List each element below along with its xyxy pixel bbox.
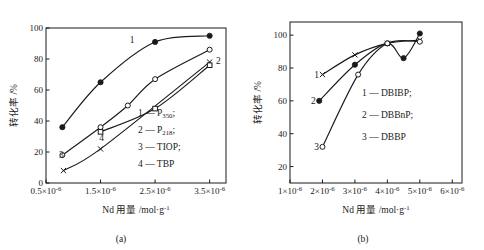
chart-legend: 1 — DBIBP;2 — DBBnP;3 — DBBP	[362, 88, 413, 142]
y-tick-label: 40	[34, 116, 44, 126]
exponent: -6	[56, 185, 62, 192]
curve-label-1: 1	[130, 35, 135, 45]
x-tick-label: 3×10-6	[343, 185, 368, 196]
legend-tail: ;	[409, 88, 412, 98]
curve-labels: 123	[311, 70, 319, 152]
y-tick-label: 100	[274, 30, 288, 40]
legend-tail: ;	[411, 110, 414, 120]
data-point-TBP	[207, 63, 212, 68]
x-tick-label: 1.5×10-6	[85, 185, 117, 196]
legend-entry-3: 3 — TIOP;	[138, 142, 181, 152]
data-point-P350	[152, 39, 157, 44]
data-point-DBIBP	[352, 52, 357, 57]
x-axis-ticks: 0.5×10-61.5×10-62.5×10-63.5×10-6	[31, 180, 226, 197]
x-axis-ticks: 1×10-62×10-63×10-64×10-65×10-66×10-6	[278, 180, 465, 197]
chart-panel-a: 0.5×10-61.5×10-62.5×10-63.5×10-6 0204060…	[0, 0, 242, 250]
legend-entry-3: 3 — DBBP	[362, 132, 406, 142]
chart-panel-b: 1×10-62×10-63×10-64×10-65×10-66×10-6 204…	[242, 0, 484, 250]
exponent: -6	[110, 185, 116, 192]
y-axis-title: 转化率 /%	[252, 81, 263, 124]
x-tick-label: 2×10-6	[310, 185, 335, 196]
legend-tail: ;	[173, 125, 176, 135]
exponent: -6	[361, 185, 367, 192]
y-axis-title: 转化率 /%	[8, 84, 19, 127]
legend-entry-2: 2 — P218;	[138, 125, 175, 136]
y-tick-label: 20	[34, 147, 44, 157]
y-tick-label: 80	[34, 54, 44, 64]
legend-tail: ;	[178, 142, 181, 152]
exponent: -6	[329, 185, 335, 192]
x-tick-label: 1×10-6	[278, 185, 303, 196]
legend-entry-4: 4 — TBP	[138, 159, 174, 169]
data-point-DBBP	[320, 144, 325, 149]
y-tick-label: 60	[278, 96, 288, 106]
data-point-DBBP	[356, 72, 361, 77]
x-tick-label: 2.5×10-6	[140, 185, 172, 196]
data-point-TIOP	[61, 168, 66, 173]
figure-root: 0.5×10-61.5×10-62.5×10-63.5×10-6 0204060…	[0, 0, 484, 250]
legend-entry-2: 2 — DBBnP;	[362, 110, 413, 120]
data-point-DBBP	[385, 41, 390, 46]
data-point-DBBP	[417, 39, 422, 44]
series-line-P350	[62, 36, 209, 127]
y-tick-label: 20	[278, 162, 288, 172]
curve-label-2: 2	[311, 96, 316, 106]
data-point-DBIBP	[320, 72, 325, 77]
data-point-TIOP	[98, 146, 103, 151]
data-point-DBBnP	[317, 98, 322, 103]
data-point-P350	[60, 125, 65, 130]
y-tick-label: 100	[30, 23, 44, 33]
x-axis-title: Nd 用量 /mol·g-1	[342, 204, 409, 215]
data-point-P218	[98, 125, 103, 130]
plot-frame	[46, 28, 226, 183]
legend-subscript: 350	[162, 112, 173, 119]
legend-entry-1: 1 — DBIBP;	[362, 88, 412, 98]
curve-label-2: 2	[216, 56, 221, 66]
data-point-P218	[207, 47, 212, 52]
series-group	[60, 33, 212, 173]
chart-b-svg: 1×10-62×10-63×10-64×10-65×10-66×10-6 204…	[242, 0, 484, 250]
data-point-DBBnP	[401, 56, 406, 61]
x-axis-title-exponent: -1	[164, 204, 170, 211]
chart-a-svg: 0.5×10-61.5×10-62.5×10-63.5×10-6 0204060…	[0, 0, 242, 250]
panel-caption-a: (a)	[116, 234, 127, 245]
series-line-TIOP	[63, 62, 209, 171]
exponent: -6	[296, 185, 302, 192]
curve-label-3: 3	[59, 150, 64, 160]
x-tick-label: 3.5×10-6	[194, 185, 226, 196]
panel-caption-b: (b)	[357, 234, 368, 245]
data-point-DBBnP	[352, 62, 357, 67]
exponent: -6	[219, 185, 225, 192]
data-point-P218	[125, 103, 130, 108]
chart-a-axes	[46, 28, 226, 183]
x-tick-label: 4×10-6	[375, 185, 400, 196]
x-tick-label: 6×10-6	[440, 185, 465, 196]
data-point-P218	[153, 77, 158, 82]
x-axis-title: Nd 用量 /mol·g-1	[102, 204, 169, 215]
exponent: -6	[165, 185, 171, 192]
data-point-P350	[207, 33, 212, 38]
legend-tail: ;	[173, 108, 176, 118]
legend-subscript: 218	[162, 129, 173, 136]
legend-entry-1: 1 — P350;	[138, 108, 175, 119]
data-point-P350	[98, 80, 103, 85]
exponent: -6	[459, 185, 465, 192]
x-tick-label: 5×10-6	[408, 185, 433, 196]
chart-legend: 1 — P350;2 — P218;3 — TIOP;4 — TBP	[138, 108, 181, 169]
data-point-DBBnP	[417, 31, 422, 36]
y-tick-label: 80	[278, 63, 288, 73]
exponent: -6	[394, 185, 400, 192]
curve-label-4: 4	[99, 133, 104, 143]
exponent: -6	[426, 185, 432, 192]
curve-label-3: 3	[314, 142, 319, 152]
x-tick-label: 0.5×10-6	[31, 185, 63, 196]
y-tick-label: 60	[34, 85, 44, 95]
y-tick-label: 40	[278, 129, 288, 139]
y-tick-label: 0	[39, 178, 44, 188]
curve-label-1: 1	[314, 70, 319, 80]
x-axis-title-exponent: -1	[404, 204, 410, 211]
series-line-P218	[62, 50, 209, 155]
